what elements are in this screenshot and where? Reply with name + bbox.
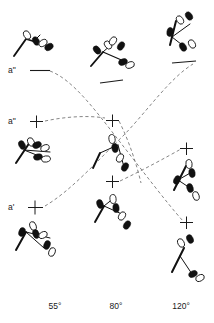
- orbital-cluster-a1-55: [16, 221, 56, 258]
- level-line-a2-120: [172, 61, 196, 63]
- level-plus-a2m-120: [180, 143, 193, 156]
- level-plus-a2m-80: [106, 115, 119, 128]
- orbital-cluster-mid-55: [16, 137, 51, 163]
- orbital-cluster-mid-80: [93, 134, 130, 172]
- symmetry-label-a2-top: a": [8, 66, 16, 75]
- axis-tick-80: 80°: [102, 302, 130, 311]
- orbital-cluster-mid-120: [172, 159, 200, 201]
- orbital-cluster-a1-80: [95, 194, 132, 230]
- correlation-lines: [45, 64, 193, 221]
- axis-tick-120: 120°: [164, 302, 198, 311]
- correlation-line-mid-descend: [119, 121, 141, 183]
- correlation-line-mid-a2-flat: [45, 117, 105, 121]
- orbital-cluster-a2-120: [166, 11, 197, 53]
- correlation-line-a1-to-mid: [120, 149, 181, 181]
- orbital-cluster-a2-80: [91, 36, 135, 70]
- correlation-line-a1-to-a2: [45, 64, 193, 206]
- level-line-a2-80: [100, 80, 123, 83]
- orbital-correlation-diagram: a" a" a' 55° 80° 120°: [0, 0, 214, 323]
- symmetry-label-a2-middle: a": [8, 117, 16, 126]
- level-plus-a1-120: [180, 217, 193, 230]
- level-plus-a1-55: [28, 201, 43, 215]
- level-plus-a1-80: [106, 176, 119, 189]
- level-plus-a2m-55: [30, 116, 43, 129]
- orbital-cluster-a1-120: [172, 234, 205, 283]
- symmetry-label-a1-bottom: a': [8, 203, 14, 212]
- axis-tick-55: 55°: [41, 302, 69, 311]
- diagram-canvas: [0, 0, 214, 323]
- orbital-cluster-a2-55: [14, 30, 54, 56]
